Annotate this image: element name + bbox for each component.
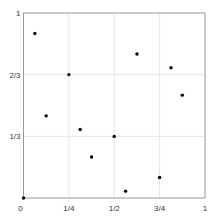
y-tick-label: 1 bbox=[16, 9, 21, 18]
x-axis-ticks: 01/41/23/41 bbox=[18, 204, 208, 213]
grid-lines bbox=[24, 13, 206, 198]
data-point bbox=[158, 176, 161, 179]
data-point bbox=[33, 32, 36, 35]
x-tick-label: 1/2 bbox=[109, 204, 121, 213]
y-tick-label: 1/3 bbox=[9, 132, 21, 141]
data-point bbox=[67, 73, 70, 76]
data-point bbox=[113, 135, 116, 138]
data-point bbox=[22, 196, 25, 199]
data-point bbox=[135, 52, 138, 55]
x-tick-label: 0 bbox=[18, 204, 23, 213]
x-tick-label: 1 bbox=[203, 204, 208, 213]
scatter-chart: 01/41/23/41 1/32/31 bbox=[0, 0, 216, 216]
x-tick-label: 1/4 bbox=[63, 204, 75, 213]
data-point bbox=[169, 66, 172, 69]
data-point bbox=[90, 155, 93, 158]
data-point bbox=[181, 93, 184, 96]
y-tick-label: 2/3 bbox=[9, 71, 21, 80]
data-point bbox=[124, 189, 127, 192]
data-point bbox=[44, 114, 47, 117]
x-tick-label: 3/4 bbox=[154, 204, 166, 213]
data-point bbox=[79, 128, 82, 131]
y-axis-ticks: 1/32/31 bbox=[9, 9, 21, 141]
